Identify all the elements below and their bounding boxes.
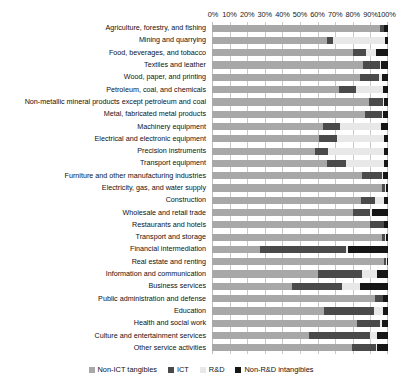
bar-row[interactable] <box>212 86 388 93</box>
bar-row[interactable] <box>212 344 388 351</box>
category-label: Culture and entertainment services <box>95 332 206 340</box>
bar-segment <box>357 320 380 327</box>
bar-segment <box>328 148 383 155</box>
bar-row[interactable] <box>212 25 388 32</box>
x-tick-label: 100% <box>377 9 396 20</box>
bar-segment <box>383 295 388 302</box>
bar-track <box>212 172 388 179</box>
bar-row[interactable] <box>212 98 388 105</box>
bar-segment <box>212 332 309 339</box>
bar-segment <box>212 234 382 241</box>
bar-row[interactable] <box>212 295 388 302</box>
bar-segment <box>212 61 363 68</box>
bar-segment <box>212 344 352 351</box>
bar-track <box>212 246 388 253</box>
bar-segment <box>212 184 382 191</box>
bar-segment <box>386 184 388 191</box>
legend-label: ICT <box>177 365 189 374</box>
bar-segment <box>356 86 382 93</box>
category-label: Wood, paper, and printing <box>124 73 206 81</box>
bar-row[interactable] <box>212 221 388 228</box>
bar-segment <box>377 344 388 351</box>
category-label: Information and communication <box>106 270 206 278</box>
bar-track <box>212 258 388 265</box>
legend-item[interactable]: R&D <box>200 365 225 374</box>
bar-segment <box>346 160 384 167</box>
legend-item[interactable]: Non-ICT tangibles <box>89 365 157 374</box>
bar-segment <box>212 148 315 155</box>
legend-label: Non-R&D intangibles <box>244 365 313 374</box>
legend-swatch-icon <box>168 367 174 373</box>
bar-segment <box>384 160 388 167</box>
bar-row[interactable] <box>212 246 388 253</box>
bar-rows <box>212 22 388 354</box>
bar-row[interactable] <box>212 332 388 339</box>
bar-row[interactable] <box>212 49 388 56</box>
bar-row[interactable] <box>212 307 388 314</box>
bar-row[interactable] <box>212 283 388 290</box>
bar-row[interactable] <box>212 270 388 277</box>
x-tick-label: 0% <box>208 9 218 20</box>
legend-item[interactable]: ICT <box>168 365 189 374</box>
x-tick-label: 80% <box>346 9 361 20</box>
bar-row[interactable] <box>212 61 388 68</box>
bar-row[interactable] <box>212 148 388 155</box>
bar-track <box>212 295 388 302</box>
bar-segment <box>337 135 384 142</box>
bar-segment <box>375 295 383 302</box>
bar-segment <box>360 283 388 290</box>
bar-segment <box>348 246 388 253</box>
category-label: Public administration and defense <box>98 295 206 303</box>
bar-segment <box>212 160 327 167</box>
bar-row[interactable] <box>212 197 388 204</box>
bar-row[interactable] <box>212 184 388 191</box>
bar-segment <box>370 221 384 228</box>
category-label: Petroleum, coal, and chemicals <box>106 86 206 94</box>
bar-segment <box>384 135 388 142</box>
bar-row[interactable] <box>212 111 388 118</box>
bar-segment <box>319 135 337 142</box>
x-tick-label: 30% <box>258 9 273 20</box>
bar-track <box>212 135 388 142</box>
bar-row[interactable] <box>212 258 388 265</box>
bar-segment <box>372 209 388 216</box>
bar-row[interactable] <box>212 123 388 130</box>
bar-row[interactable] <box>212 160 388 167</box>
legend-swatch-icon <box>200 367 206 373</box>
bar-row[interactable] <box>212 234 388 241</box>
bar-segment <box>374 307 383 314</box>
bar-segment <box>365 111 382 118</box>
category-label: Real estate and renting <box>132 258 206 266</box>
bar-segment <box>353 209 371 216</box>
bar-row[interactable] <box>212 209 388 216</box>
bar-row[interactable] <box>212 37 388 44</box>
bar-segment <box>212 320 357 327</box>
bar-segment <box>315 148 328 155</box>
bar-segment <box>376 49 388 56</box>
category-label: Agriculture, forestry, and fishing <box>105 24 206 32</box>
bar-row[interactable] <box>212 320 388 327</box>
legend-swatch-icon <box>89 367 95 373</box>
bar-row[interactable] <box>212 135 388 142</box>
bar-segment <box>384 25 388 32</box>
bar-segment <box>324 307 374 314</box>
bar-segment <box>339 86 357 93</box>
bar-row[interactable] <box>212 172 388 179</box>
bar-segment <box>212 172 362 179</box>
bar-segment <box>383 111 388 118</box>
category-label: Restaurants and hotels <box>132 221 206 229</box>
category-label: Mining and quarrying <box>139 36 206 44</box>
bar-segment <box>384 197 388 204</box>
bar-segment <box>212 123 323 130</box>
bar-track <box>212 332 388 339</box>
bar-track <box>212 49 388 56</box>
bar-segment <box>212 295 375 302</box>
bar-segment <box>212 25 380 32</box>
category-label: Construction <box>166 196 206 204</box>
bar-track <box>212 123 388 130</box>
bar-row[interactable] <box>212 74 388 81</box>
legend-item[interactable]: Non-R&D intangibles <box>235 365 313 374</box>
bar-segment <box>212 111 365 118</box>
bar-track <box>212 307 388 314</box>
bar-segment <box>212 307 324 314</box>
